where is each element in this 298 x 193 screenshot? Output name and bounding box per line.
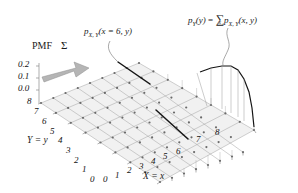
x-axis-name: X = x [143, 172, 164, 182]
x-tick-7: 7 [196, 135, 201, 144]
x-tick-4: 4 [151, 157, 156, 166]
marg-arg: (y) [196, 15, 206, 25]
z-axis [36, 63, 39, 103]
cond-sub: X, Y [89, 32, 99, 38]
y-tick-3: 3 [66, 146, 71, 155]
marginal-leader [223, 28, 229, 65]
y-tick-0: 0 [90, 175, 95, 184]
joint-pmf-figure: PMF Σ 0.2 0.1 0.0 8 7 6 5 4 3 2 1 0 Y = … [0, 0, 298, 193]
x-tick-8: 8 [215, 128, 220, 137]
pmf-axis-label: PMF [32, 41, 52, 51]
cond-args: (x = 6, y) [99, 26, 133, 36]
x-tick-5: 5 [163, 152, 168, 161]
x-tick-0: 0 [103, 175, 108, 184]
sum-subscript: x [218, 20, 220, 26]
x-tick-6: 6 [176, 147, 181, 156]
y-tick-6: 6 [42, 117, 47, 126]
y-tick-5: 5 [50, 127, 55, 136]
x-tick-2: 2 [127, 166, 132, 175]
y-tick-7: 7 [34, 107, 39, 116]
z-tick-2: 0.0 [18, 84, 29, 93]
conditional-slice-leader [108, 41, 117, 61]
y-tick-4: 4 [58, 136, 63, 145]
conditional-slice-label: pX, Y(x = 6, y) [84, 27, 132, 38]
y-tick-8: 8 [27, 97, 32, 106]
marg-sub2: X, Y [228, 21, 238, 27]
y-tick-1: 1 [82, 165, 87, 174]
y-axis-name: Y = y [27, 136, 48, 146]
x-tick-3: 3 [139, 162, 144, 171]
z-tick-1: 0.1 [18, 72, 29, 81]
marg-args2: (x, y) [239, 15, 257, 25]
z-tick-0: 0.2 [18, 60, 29, 69]
pmf-arrow-icon [42, 62, 89, 82]
summation-symbol: ∑x [215, 12, 224, 26]
y-tick-2: 2 [74, 156, 79, 165]
x-tick-1: 1 [115, 171, 120, 180]
marg-eq: = [208, 15, 213, 25]
sigma-symbol: Σ [61, 40, 67, 51]
marginal-label: pY(y) = ∑xpX, Y(x, y) [188, 13, 257, 27]
pmf-lattice-plot [0, 0, 298, 193]
